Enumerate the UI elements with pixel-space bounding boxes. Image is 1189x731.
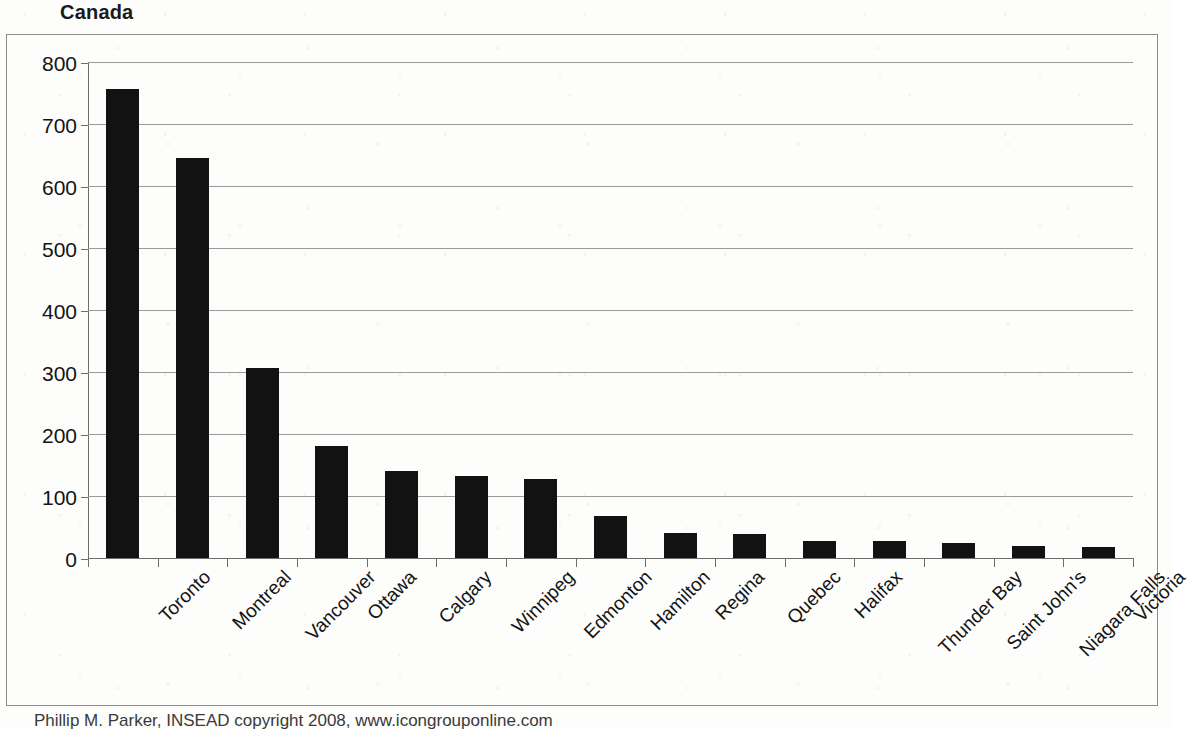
category-label-regina: Regina <box>712 567 768 623</box>
category-label-quebec: Quebec <box>783 567 843 627</box>
bar-halifax <box>803 541 836 558</box>
chart-title: Canada <box>60 1 133 24</box>
y-tick-300 <box>81 373 88 374</box>
category-tick <box>436 558 437 567</box>
plot-area: 8007006005004003002001000 <box>88 62 1133 558</box>
category-tick <box>715 558 716 567</box>
bar-series <box>88 62 1133 558</box>
category-tick <box>367 558 368 567</box>
bar-winnipeg <box>455 476 488 558</box>
category-label-edmonton: Edmonton <box>580 567 655 642</box>
bar-regina <box>664 533 697 558</box>
y-axis-label: 400 <box>42 301 77 322</box>
category-tick <box>785 558 786 567</box>
y-tick-800 <box>81 63 88 64</box>
y-axis-label: 100 <box>42 487 77 508</box>
category-tick <box>854 558 855 567</box>
category-tick <box>994 558 995 567</box>
bar-vancouver <box>246 368 279 558</box>
y-axis-label: 200 <box>42 425 77 446</box>
y-tick-700 <box>81 125 88 126</box>
category-tick <box>88 558 89 567</box>
bar-niagara-falls <box>1012 546 1045 558</box>
category-tick <box>924 558 925 567</box>
bar-hamilton <box>594 516 627 558</box>
category-tick <box>1063 558 1064 567</box>
category-label-calgary: Calgary <box>435 567 495 627</box>
y-tick-400 <box>81 311 88 312</box>
category-label-winnipeg: Winnipeg <box>508 567 577 636</box>
y-axis-label: 500 <box>42 239 77 260</box>
category-tick <box>576 558 577 567</box>
category-label-hamilton: Hamilton <box>646 567 712 633</box>
y-tick-500 <box>81 249 88 250</box>
category-tick <box>1133 558 1134 567</box>
category-tick <box>297 558 298 567</box>
y-tick-600 <box>81 187 88 188</box>
bar-saint-john-s <box>942 543 975 558</box>
y-tick-200 <box>81 435 88 436</box>
category-axis-ticks <box>88 558 1133 567</box>
bar-edmonton <box>524 479 557 558</box>
bar-ottawa <box>315 446 348 558</box>
category-label-montreal: Montreal <box>228 567 294 633</box>
y-axis-label: 600 <box>42 177 77 198</box>
category-tick <box>645 558 646 567</box>
figure-caption: Phillip M. Parker, INSEAD copyright 2008… <box>34 711 553 731</box>
category-tick <box>227 558 228 567</box>
bar-thunder-bay <box>873 541 906 558</box>
category-axis-labels: TorontoMontrealVancouverOttawaCalgaryWin… <box>88 567 1133 677</box>
category-label-toronto: Toronto <box>155 567 213 625</box>
category-tick <box>158 558 159 567</box>
y-axis-label: 700 <box>42 115 77 136</box>
y-axis-label: 300 <box>42 363 77 384</box>
y-tick-0 <box>81 559 88 560</box>
y-axis-label: 800 <box>42 53 77 74</box>
bar-calgary <box>385 471 418 558</box>
bar-montreal <box>176 158 209 558</box>
y-axis-label: 0 <box>65 549 77 570</box>
category-tick <box>506 558 507 567</box>
category-label-halifax: Halifax <box>851 567 906 622</box>
bar-victoria <box>1082 547 1115 558</box>
y-tick-100 <box>81 497 88 498</box>
bar-toronto <box>106 89 139 558</box>
bar-quebec <box>733 534 766 558</box>
